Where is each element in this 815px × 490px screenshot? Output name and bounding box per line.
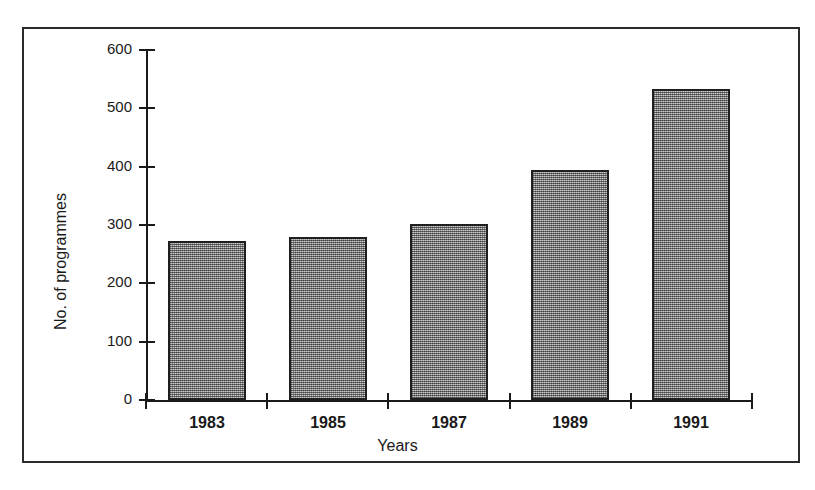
y-axis-tick-label-text: 400 xyxy=(90,158,132,173)
x-axis-label-1987: 1987 xyxy=(394,414,504,432)
y-axis-tick-label: 600 xyxy=(88,41,132,57)
y-axis-tick-label-text: 0 xyxy=(90,391,132,406)
y-axis-tick-label: 0 xyxy=(88,391,132,407)
y-axis-tick xyxy=(139,107,155,109)
bar-1991 xyxy=(652,89,730,400)
bar-1989 xyxy=(531,170,609,400)
x-axis-label-1991: 1991 xyxy=(636,414,746,432)
y-axis-tick-label-text: 100 xyxy=(90,333,132,348)
x-axis-tick xyxy=(630,393,632,409)
x-axis-label-1983: 1983 xyxy=(152,414,262,432)
figure-root: 0100200300400500600 19831985198719891991… xyxy=(0,0,815,490)
y-axis-tick-label: 400 xyxy=(88,158,132,174)
y-axis-tick-label: 300 xyxy=(88,216,132,232)
y-axis-title-text: No. of programmes xyxy=(52,130,70,330)
y-axis-line xyxy=(146,50,148,402)
y-axis-tick xyxy=(139,282,155,284)
plot-area: 0100200300400500600 19831985198719891991… xyxy=(0,0,815,490)
y-axis-tick xyxy=(139,49,155,51)
y-axis-tick xyxy=(139,399,155,401)
y-axis-tick xyxy=(139,341,155,343)
y-axis-tick xyxy=(139,224,155,226)
y-axis-tick-label-text: 300 xyxy=(90,216,132,231)
x-axis-tick xyxy=(266,393,268,409)
y-axis-tick-label-text: 600 xyxy=(90,41,132,56)
bar-1987 xyxy=(410,224,488,400)
y-axis-title: No. of programmes xyxy=(52,0,70,130)
x-axis-tick xyxy=(509,393,511,409)
x-axis-tick xyxy=(145,393,147,409)
x-axis-line xyxy=(146,400,752,402)
y-axis-tick-label: 100 xyxy=(88,333,132,349)
bar-1985 xyxy=(289,237,367,400)
x-axis-label-1985: 1985 xyxy=(273,414,383,432)
x-axis-tick xyxy=(387,393,389,409)
x-axis-label-1989: 1989 xyxy=(515,414,625,432)
y-axis-tick-label: 200 xyxy=(88,274,132,290)
y-axis-tick xyxy=(139,166,155,168)
x-axis-title-text: Years xyxy=(377,437,417,454)
x-axis-tick xyxy=(751,393,753,409)
y-axis-tick-label-text: 200 xyxy=(90,274,132,289)
y-axis-tick-label-text: 500 xyxy=(90,99,132,114)
x-axis-title: Years xyxy=(0,437,815,455)
y-axis-tick-label: 500 xyxy=(88,99,132,115)
bar-1983 xyxy=(168,241,246,400)
